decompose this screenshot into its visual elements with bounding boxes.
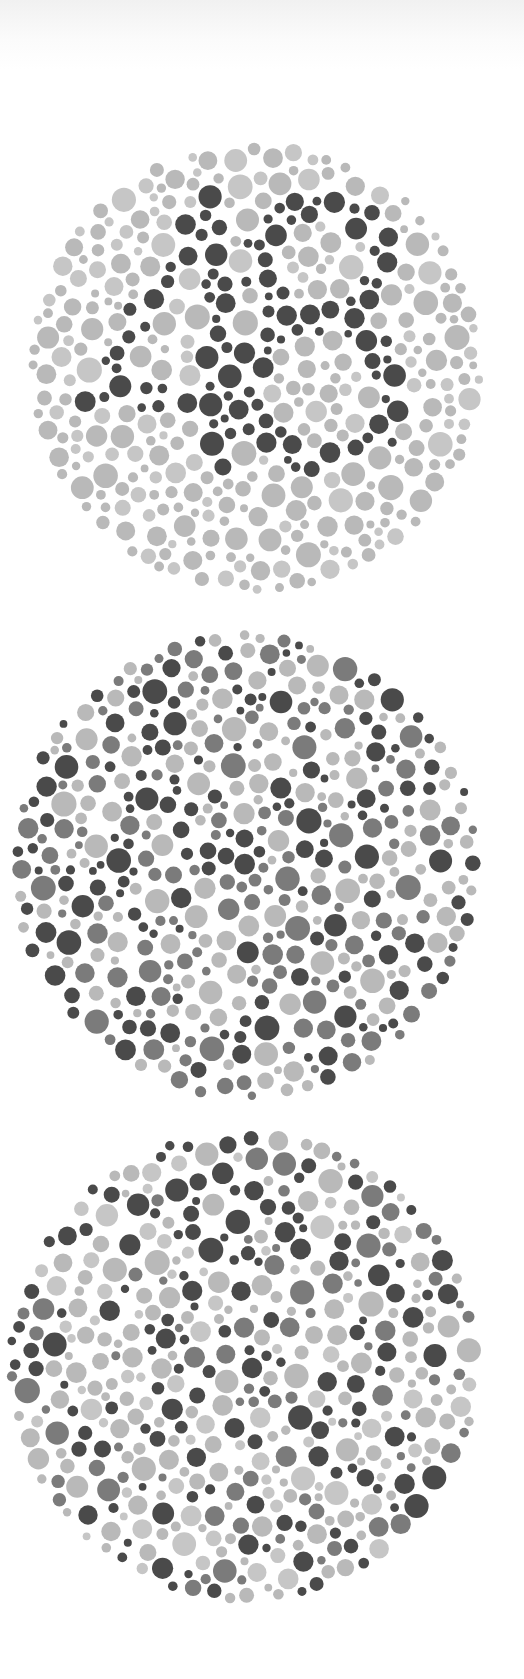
dot [306, 401, 327, 422]
dot [351, 1353, 372, 1374]
dot [133, 1009, 141, 1017]
dot [166, 262, 176, 272]
dot [346, 297, 356, 307]
dot [205, 734, 224, 753]
dot [444, 839, 454, 849]
dot [346, 177, 365, 196]
dot [179, 365, 200, 386]
dot [220, 516, 230, 526]
dot [123, 839, 134, 850]
dot [278, 810, 294, 826]
dot [345, 218, 367, 240]
dot [89, 867, 97, 875]
dot [344, 986, 357, 999]
dot [69, 1298, 88, 1317]
dot [201, 1574, 211, 1584]
dot [253, 357, 274, 378]
dot [337, 1360, 349, 1372]
dot [469, 324, 477, 332]
dot [240, 630, 250, 640]
dot [265, 1217, 273, 1225]
dot [457, 1338, 481, 1362]
dot [185, 1224, 201, 1240]
dot [416, 1407, 436, 1427]
dot [273, 965, 287, 979]
dot [127, 1194, 149, 1216]
dot [184, 1570, 192, 1578]
dot [417, 956, 433, 972]
dot [244, 386, 255, 397]
dot [263, 385, 281, 403]
dot [287, 262, 299, 274]
dot [458, 373, 470, 385]
dot [145, 1250, 170, 1275]
dot [86, 301, 99, 314]
dot [102, 802, 122, 822]
dot [426, 379, 436, 389]
dot [123, 1324, 140, 1341]
dot [139, 960, 161, 982]
dot [182, 1247, 194, 1259]
dot [303, 761, 320, 778]
dot [357, 1457, 365, 1465]
dot [334, 353, 351, 370]
dot [298, 886, 308, 896]
dot [162, 659, 180, 677]
dot [302, 1080, 313, 1091]
dot [23, 1343, 39, 1359]
dot [87, 1381, 102, 1396]
dot [83, 1252, 99, 1268]
dot [155, 654, 164, 663]
dot [292, 324, 304, 336]
dot [354, 1432, 362, 1440]
dot [450, 315, 459, 324]
dot [34, 409, 43, 418]
dot [315, 1482, 324, 1491]
dot [255, 995, 269, 1009]
dot [76, 728, 98, 750]
dot [162, 1217, 174, 1229]
dot [360, 276, 369, 285]
dot [380, 502, 393, 515]
dot [270, 1548, 285, 1563]
dot [459, 1428, 469, 1438]
dot [358, 811, 368, 821]
dot [277, 287, 290, 300]
dot [236, 208, 259, 231]
dot [298, 272, 309, 283]
dot [279, 520, 291, 532]
dot [397, 914, 408, 925]
dot [40, 813, 54, 827]
dot [47, 951, 55, 959]
dot [133, 1443, 145, 1455]
dot [67, 1334, 76, 1343]
dot [184, 483, 203, 502]
dot [157, 504, 169, 516]
dot [138, 851, 154, 867]
dot [122, 1347, 142, 1367]
dot [186, 1406, 199, 1419]
dot [286, 946, 304, 964]
dot [234, 803, 255, 824]
dot [318, 803, 327, 812]
dot [213, 173, 223, 183]
dot [257, 826, 267, 836]
dot [420, 825, 440, 845]
dot [205, 1436, 222, 1453]
dot [455, 802, 467, 814]
dot [307, 496, 322, 511]
dot [259, 1386, 270, 1397]
dot [359, 1316, 367, 1324]
dot [129, 868, 137, 876]
dot [13, 1321, 25, 1333]
dot [296, 542, 321, 567]
dot [418, 261, 441, 284]
dot [190, 1173, 207, 1190]
dot [397, 1452, 405, 1460]
dot [260, 644, 280, 664]
dot [118, 876, 130, 888]
dot [205, 1484, 215, 1494]
dot [394, 1474, 414, 1494]
dot [395, 343, 407, 355]
dot [159, 1473, 167, 1481]
